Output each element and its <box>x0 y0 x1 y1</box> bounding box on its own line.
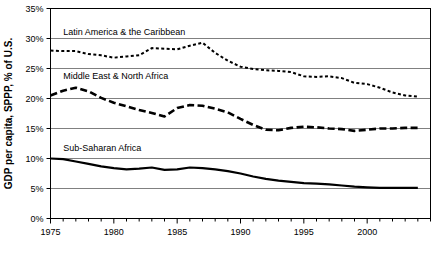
x-tick-label-1985: 1985 <box>167 227 187 237</box>
y-axis-ticks-group <box>47 9 51 219</box>
y-tick-label-15: 15% <box>25 124 43 134</box>
series-line-sub-saharan-africa <box>51 159 418 188</box>
series-label-sub-saharan-africa: Sub-Saharan Africa <box>63 143 141 153</box>
y-tick-label-30: 30% <box>25 34 43 44</box>
y-tick-label-0: 0% <box>30 214 43 224</box>
y-axis-title-group: GDP per capita, SPPP, % of U.S. <box>3 38 14 190</box>
y-tick-label-10: 10% <box>25 154 43 164</box>
chart-container: 0%5%10%15%20%25%30%35% 19751980198519901… <box>0 0 441 253</box>
x-axis-ticks-group <box>51 219 431 224</box>
series-label-latin-america-the-caribbean: Latin America & the Caribbean <box>63 27 185 37</box>
x-tick-label-1990: 1990 <box>230 227 250 237</box>
x-tick-label-1995: 1995 <box>294 227 314 237</box>
y-tick-label-35: 35% <box>25 4 43 14</box>
x-tick-label-2000: 2000 <box>357 227 377 237</box>
x-tick-label-1975: 1975 <box>40 227 60 237</box>
y-tick-label-20: 20% <box>25 94 43 104</box>
x-axis-tick-labels: 197519801985199019952000 <box>40 227 377 237</box>
y-axis-tick-labels: 0%5%10%15%20%25%30%35% <box>25 4 43 224</box>
series-label-middle-east-north-africa: Middle East & North Africa <box>63 71 168 81</box>
y-axis-title: GDP per capita, SPPP, % of U.S. <box>3 38 14 190</box>
series-line-latin-america-the-caribbean <box>51 43 418 97</box>
y-tick-label-5: 5% <box>30 184 43 194</box>
series-line-middle-east-north-africa <box>51 88 418 131</box>
series-lines-group <box>51 43 418 188</box>
gdp-per-capita-line-chart: 0%5%10%15%20%25%30%35% 19751980198519901… <box>0 0 441 253</box>
x-tick-label-1980: 1980 <box>104 227 124 237</box>
y-tick-label-25: 25% <box>25 64 43 74</box>
